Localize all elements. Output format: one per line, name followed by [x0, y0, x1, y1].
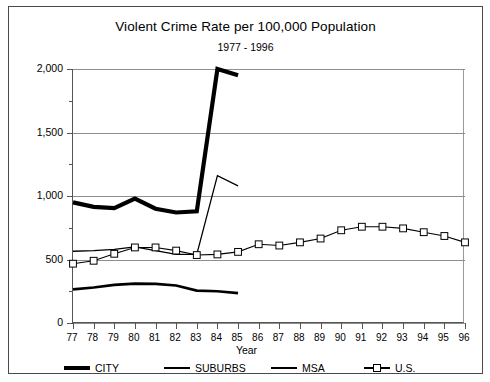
- data-point-marker: [70, 260, 77, 267]
- legend-label: U.S.: [395, 362, 415, 374]
- y-axis-label: 500: [11, 253, 63, 265]
- y-axis-label: 1,500: [11, 126, 63, 138]
- legend-label: SUBURBS: [195, 362, 246, 374]
- data-point-marker: [214, 251, 221, 258]
- data-point-marker: [379, 223, 386, 230]
- data-point-marker: [297, 239, 304, 246]
- x-tick: [156, 323, 157, 329]
- x-tick: [114, 323, 115, 329]
- data-point-marker: [420, 229, 427, 236]
- legend-swatch-icon: [164, 363, 190, 373]
- legend-swatch-icon: [271, 363, 297, 373]
- data-point-marker: [255, 241, 262, 248]
- x-tick: [217, 323, 218, 329]
- legend-swatch-icon: [64, 363, 90, 373]
- data-point-marker: [90, 257, 97, 264]
- series-lines: [73, 69, 465, 323]
- legend-item-city[interactable]: CITY: [64, 360, 119, 376]
- legend-swatch-icon: [364, 363, 390, 373]
- x-tick: [176, 323, 177, 329]
- data-point-marker: [441, 233, 448, 240]
- x-tick: [403, 323, 404, 329]
- data-point-marker: [193, 252, 200, 259]
- data-point-marker: [400, 225, 407, 232]
- chart-legend: CITYSUBURBSMSAU.S.: [9, 360, 484, 376]
- x-tick: [321, 323, 322, 329]
- x-tick: [279, 323, 280, 329]
- plot-area: [72, 69, 464, 323]
- gridline: [73, 323, 465, 324]
- x-tick: [197, 323, 198, 329]
- y-axis-label: 1,000: [11, 189, 63, 201]
- x-tick: [465, 323, 466, 329]
- data-point-marker: [338, 227, 345, 234]
- x-tick: [238, 323, 239, 329]
- x-tick: [362, 323, 363, 329]
- x-tick: [73, 323, 74, 329]
- x-tick: [135, 323, 136, 329]
- legend-item-suburbs[interactable]: SUBURBS: [164, 360, 246, 376]
- chart-frame: Violent Crime Rate per 100,000 Populatio…: [8, 6, 483, 374]
- x-axis-label: 96: [451, 332, 477, 343]
- series-line-msa: [73, 176, 238, 255]
- chart-title: Violent Crime Rate per 100,000 Populatio…: [9, 19, 482, 34]
- legend-item-msa[interactable]: MSA: [271, 360, 325, 376]
- x-tick: [424, 323, 425, 329]
- x-tick: [259, 323, 260, 329]
- data-point-marker: [173, 247, 180, 254]
- x-tick: [382, 323, 383, 329]
- y-axis-label: 2,000: [11, 62, 63, 74]
- chart-subtitle: 1977 - 1996: [9, 41, 482, 53]
- data-point-marker: [358, 223, 365, 230]
- data-point-marker: [235, 248, 242, 255]
- legend-item-us[interactable]: U.S.: [364, 360, 415, 376]
- x-axis-title: Year: [9, 344, 484, 356]
- x-tick: [444, 323, 445, 329]
- x-tick: [341, 323, 342, 329]
- data-point-marker: [462, 239, 469, 246]
- y-axis-label: 0: [11, 316, 63, 328]
- data-point-marker: [131, 244, 138, 251]
- data-point-marker: [152, 244, 159, 251]
- x-tick: [94, 323, 95, 329]
- x-tick: [300, 323, 301, 329]
- data-point-marker: [111, 250, 118, 257]
- data-point-marker: [317, 235, 324, 242]
- data-point-marker: [276, 242, 283, 249]
- legend-label: MSA: [302, 362, 325, 374]
- legend-label: CITY: [95, 362, 119, 374]
- series-line-suburbs: [73, 284, 238, 294]
